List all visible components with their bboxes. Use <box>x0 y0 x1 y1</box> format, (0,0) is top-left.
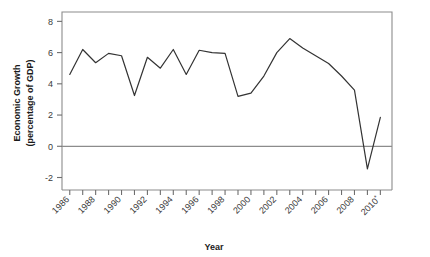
y-tick-label: -2 <box>45 173 53 183</box>
y-axis-title-line2: (percentage of GDP) <box>25 59 35 146</box>
y-tick-label: 2 <box>48 110 53 120</box>
y-tick-label: 6 <box>48 48 53 58</box>
economic-growth-line-chart: -202468 19861988199019921994199619982000… <box>0 0 430 257</box>
y-axis-title-line1: Economic Growth <box>12 64 22 141</box>
y-tick-label: 8 <box>48 17 53 27</box>
y-tick-label: 4 <box>48 79 53 89</box>
x-axis-title: Year <box>204 242 224 252</box>
y-tick-label: 0 <box>48 142 53 152</box>
chart-figure: -202468 19861988199019921994199619982000… <box>0 0 430 257</box>
chart-background <box>0 0 430 257</box>
